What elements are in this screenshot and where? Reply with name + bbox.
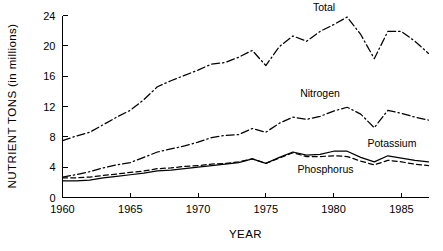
x-tick-label: 1980 bbox=[321, 203, 345, 215]
x-axis-title: YEAR bbox=[229, 228, 262, 240]
series-line-phosphorus bbox=[63, 153, 429, 178]
series-line-total bbox=[63, 17, 429, 141]
y-axis-title: NUTRIENT TONS (in millions) bbox=[6, 24, 18, 189]
series-layer bbox=[63, 17, 429, 181]
x-axis-ticks: 196019651970197519801985 bbox=[50, 193, 413, 215]
y-tick-label: 16 bbox=[43, 70, 55, 82]
nutrient-tons-line-chart: 04812162024 196019651970197519801985 Tot… bbox=[0, 0, 443, 251]
x-tick-label: 1975 bbox=[254, 203, 278, 215]
series-line-potassium bbox=[63, 151, 429, 181]
y-tick-label: 24 bbox=[43, 10, 55, 22]
y-tick-label: 12 bbox=[43, 101, 55, 113]
series-label-phosphorus: Phosphorus bbox=[297, 163, 353, 175]
plot-axes: 04812162024 196019651970197519801985 bbox=[43, 10, 428, 215]
series-label-total: Total bbox=[313, 1, 335, 13]
series-label-potassium: Potassium bbox=[367, 137, 416, 149]
x-tick-label: 1960 bbox=[50, 203, 74, 215]
x-tick-label: 1970 bbox=[186, 203, 210, 215]
y-tick-label: 8 bbox=[49, 131, 55, 143]
y-tick-label: 20 bbox=[43, 40, 55, 52]
series-annotations: TotalNitrogenPotassiumPhosphorus bbox=[297, 1, 416, 175]
x-tick-label: 1985 bbox=[389, 203, 413, 215]
chart-container: 04812162024 196019651970197519801985 Tot… bbox=[0, 0, 443, 251]
y-axis-ticks: 04812162024 bbox=[43, 10, 67, 204]
y-tick-label: 4 bbox=[49, 161, 55, 173]
x-tick-label: 1965 bbox=[118, 203, 142, 215]
series-label-nitrogen: Nitrogen bbox=[300, 87, 340, 99]
